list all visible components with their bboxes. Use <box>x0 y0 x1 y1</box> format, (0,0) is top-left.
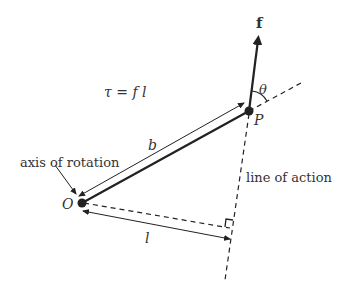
point-p-label: P <box>253 112 264 128</box>
equation-label: τ = f l <box>104 84 147 100</box>
point-o <box>78 199 87 208</box>
right-angle-mark <box>225 219 233 227</box>
line-of-action <box>225 114 249 280</box>
point-p <box>245 107 254 116</box>
b-label: b <box>148 137 157 153</box>
torque-diagram: f θ P O τ = f l b l axis of rotation lin… <box>0 0 341 295</box>
lever-extension-dashed <box>249 83 301 111</box>
b-dimension-arrow <box>79 103 244 196</box>
l-label: l <box>145 230 149 246</box>
theta-label: θ <box>259 82 267 97</box>
line-of-action-label: line of action <box>246 170 333 185</box>
force-label: f <box>256 14 264 32</box>
force-vector <box>249 40 258 111</box>
axis-of-rotation-label: axis of rotation <box>20 155 120 170</box>
point-o-label: O <box>62 196 74 212</box>
